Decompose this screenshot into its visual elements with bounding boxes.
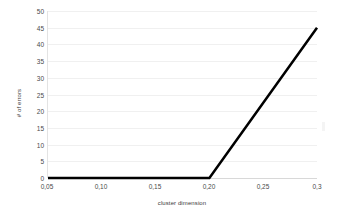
chart-container: # of errors 05101520253035404550 0,050,1… (0, 0, 343, 220)
y-tick-label: 5 (22, 158, 44, 165)
y-tick-label: 0 (22, 175, 44, 182)
y-tick-label: 45 (22, 24, 44, 31)
series-line-errors (48, 11, 317, 178)
y-tick-label: 40 (22, 41, 44, 48)
y-tick-label: 25 (22, 91, 44, 98)
y-axis-tick-labels: 05101520253035404550 (22, 11, 44, 178)
x-tick-label: 0,3 (297, 182, 337, 191)
x-axis-title: cluster dimension (47, 200, 317, 206)
plot-area (47, 11, 317, 178)
y-tick-label: 50 (22, 8, 44, 15)
y-tick-label: 35 (22, 58, 44, 65)
x-tick-label: 0,25 (243, 182, 283, 191)
x-tick-label: 0,10 (81, 182, 121, 191)
y-tick-label: 15 (22, 124, 44, 131)
x-axis-tick-labels: 0,050,100,150,200,250,3 (47, 182, 317, 192)
y-tick-label: 30 (22, 74, 44, 81)
scan-artifact (322, 122, 325, 131)
x-tick-label: 0,15 (135, 182, 175, 191)
x-tick-label: 0,20 (189, 182, 229, 191)
x-tick-label: 0,05 (27, 182, 67, 191)
y-tick-label: 10 (22, 141, 44, 148)
y-tick-label: 20 (22, 108, 44, 115)
